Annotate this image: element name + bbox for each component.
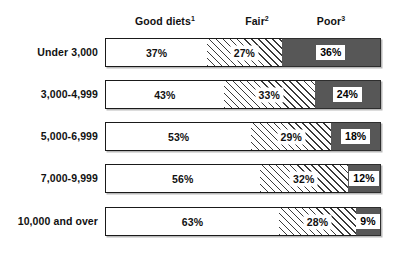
stacked-bar: 37% 27% 36% [105,38,381,67]
segment-poor: 18% [331,122,381,151]
segment-value-good: 63% [180,216,205,228]
chart-row: 3,000-4,999 43% 33% 24% [0,80,402,109]
segment-good: 53% [105,122,251,151]
chart-row: Under 3,000 37% 27% 36% [0,38,402,67]
segment-fair: 28% [279,207,356,236]
segment-value-poor: 36% [316,45,345,60]
segment-value-poor: 12% [349,171,378,186]
segment-good: 63% [105,207,279,236]
segment-value-fair: 33% [257,89,282,101]
segment-poor: 9% [356,207,381,236]
segment-fair: 27% [207,38,282,67]
segment-value-poor: 24% [333,87,362,102]
chart-row: 7,000-9,999 56% 32% 12% [0,164,402,193]
legend-label-good-diets: Good diets1 [135,15,195,27]
chart-legend-headers: Good diets1 Fair2 Poor3 [105,15,381,31]
segment-value-fair: 29% [279,131,304,143]
segment-value-good: 53% [166,131,191,143]
footnote-marker-3: 3 [341,15,345,22]
chart-row: 10,000 and over 63% 28% 9% [0,207,402,236]
stacked-bar: 56% 32% 12% [105,164,381,193]
row-label: 5,000-6,999 [41,122,98,151]
footnote-marker-1: 1 [191,15,195,22]
segment-good: 37% [105,38,207,67]
stacked-bar: 43% 33% 24% [105,80,381,109]
chart-row: 5,000-6,999 53% 29% 18% [0,122,402,151]
segment-good: 56% [105,164,260,193]
segment-value-fair: 27% [232,47,257,59]
stacked-bar: 53% 29% 18% [105,122,381,151]
stacked-bar: 63% 28% 9% [105,207,381,236]
legend-text-good-diets: Good diets [135,15,191,27]
segment-poor: 12% [348,164,381,193]
legend-text-poor: Poor [317,15,341,27]
segment-value-good: 56% [170,173,195,185]
segment-value-poor: 18% [341,129,370,144]
row-label: 7,000-9,999 [41,164,98,193]
legend-label-poor: Poor3 [317,15,345,27]
segment-fair: 33% [224,80,315,109]
row-label: 10,000 and over [18,207,98,236]
segment-fair: 32% [260,164,348,193]
stacked-bar-chart: Good diets1 Fair2 Poor3 Under 3,000 37% … [0,0,402,256]
cut-off-caption-sliver [150,0,270,3]
segment-value-fair: 28% [305,216,330,228]
segment-value-good: 43% [152,89,177,101]
segment-good: 43% [105,80,224,109]
segment-poor: 36% [282,38,381,67]
row-label: Under 3,000 [37,38,98,67]
segment-value-good: 37% [144,47,169,59]
segment-value-poor: 9% [356,214,379,229]
footnote-marker-2: 2 [265,15,269,22]
segment-poor: 24% [315,80,381,109]
legend-label-fair: Fair2 [245,15,269,27]
segment-value-fair: 32% [291,173,316,185]
segment-fair: 29% [251,122,331,151]
legend-text-fair: Fair [245,15,265,27]
row-label: 3,000-4,999 [41,80,98,109]
